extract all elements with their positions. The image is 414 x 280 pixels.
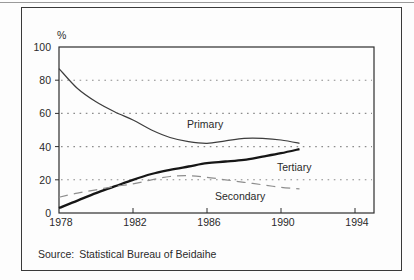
x-tick-label-1990: 1990 [265,217,301,228]
y-tick-label-60: 60 [19,108,51,119]
x-tick-label-1982: 1982 [117,217,153,228]
series-label-primary: Primary [187,119,223,130]
x-tick-label-1978: 1978 [43,217,79,228]
y-tick-label-80: 80 [19,75,51,86]
x-tick-label-1994: 1994 [339,217,375,228]
y-tick-label-40: 40 [19,142,51,153]
source-text: Statistical Bureau of Beidaihe [79,248,216,260]
series-label-secondary: Secondary [215,191,265,202]
x-tick-label-1986: 1986 [191,217,227,228]
figure: % 020406080100 19781982198619901994 Prim… [0,0,414,280]
series-label-tertiary: Tertiary [277,162,311,173]
line-chart-canvas [0,0,414,280]
source-caption: Source:Statistical Bureau of Beidaihe [38,248,216,260]
y-axis-unit-label: % [57,30,66,41]
source-label: Source: [38,248,74,260]
y-tick-label-100: 100 [19,42,51,53]
y-tick-label-20: 20 [19,175,51,186]
